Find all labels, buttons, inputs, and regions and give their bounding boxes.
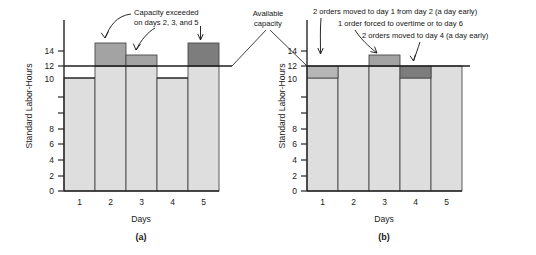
y-tick-label-a-8: 8 (49, 124, 54, 134)
y-tick-label-a-0: 0 (49, 186, 54, 196)
x-tick-label-b-1: 1 (320, 197, 325, 207)
x-axis-title-b: Days (374, 214, 394, 224)
order-forced-overtime-text: 1 order forced to overtime or to day 6 (338, 19, 463, 28)
x-tick-label-b-4: 4 (413, 197, 418, 207)
bar-b-3-overflow (369, 55, 400, 66)
y-tick-label-b-8: 8 (292, 124, 297, 134)
bar-a-1-base (64, 78, 95, 191)
y-tick-label-b-14: 14 (288, 46, 298, 56)
bar-b-1-rescheduled (307, 66, 338, 78)
y-tick-label-a-14: 14 (45, 46, 55, 56)
figure-container: 0 2 4 6 8 10 12 14 1 2 3 4 5 Days Standa… (0, 0, 536, 255)
y-tick-label-b-0: 0 (292, 186, 297, 196)
panel-label-b: (b) (378, 232, 390, 242)
y-tick-label-b-12: 12 (288, 61, 298, 71)
available-capacity-line-1: Available (253, 9, 284, 18)
y-axis-title-b: Standard Labor-Hours (277, 63, 287, 148)
panel-a: 0 2 4 6 8 10 12 14 1 2 3 4 5 Days Standa… (24, 8, 232, 242)
bar-a-4-base (157, 78, 188, 191)
x-axis-title-a: Days (131, 214, 151, 224)
bar-b-3-base (369, 66, 400, 191)
capacity-exceeded-note-line-1: Capacity exceeded (134, 8, 199, 17)
available-capacity-line-2: capacity (254, 19, 282, 28)
panel-label-a: (a) (136, 232, 147, 242)
bar-b-2-base (338, 66, 369, 191)
bar-b-1-base (307, 78, 338, 191)
y-ticks-b (301, 51, 307, 191)
orders-moved-day1-text: 2 orders moved to day 1 from day 2 (a da… (313, 7, 478, 16)
arrowhead-bar-b-4 (410, 55, 415, 61)
y-ticks-a (58, 51, 64, 191)
bar-a-2-base (95, 66, 126, 191)
y-tick-label-a-10: 10 (45, 74, 55, 84)
y-tick-label-a-12: 12 (45, 61, 55, 71)
x-tick-label-a-5: 5 (201, 197, 206, 207)
y-tick-label-b-4: 4 (292, 155, 297, 165)
x-tick-label-a-3: 3 (139, 197, 144, 207)
leader-to-capacity-a (232, 30, 266, 66)
capacity-exceeded-note-line-2: on days 2, 3, and 5 (134, 18, 199, 27)
x-tick-label-b-2: 2 (351, 197, 356, 207)
arrow-to-bar-b-1 (320, 18, 321, 54)
orders-moved-day4-text: 2 orders moved to day 4 (a day early) (362, 31, 489, 40)
y-tick-label-b-6: 6 (292, 139, 297, 149)
bar-a-3-overflow (126, 55, 157, 66)
y-tick-label-a-2: 2 (49, 171, 54, 181)
y-tick-label-a-4: 4 (49, 155, 54, 165)
arrow-to-bar-a-2 (105, 14, 131, 38)
panel-b: 0 2 4 6 8 10 12 14 1 2 3 4 5 Days Standa… (277, 7, 489, 242)
bar-b-4-rescheduled (400, 66, 431, 78)
two-panel-bar-chart: 0 2 4 6 8 10 12 14 1 2 3 4 5 Days Standa… (0, 0, 536, 255)
x-tick-label-b-3: 3 (382, 197, 387, 207)
y-tick-label-b-2: 2 (292, 171, 297, 181)
bar-a-2-overflow (95, 43, 126, 66)
bar-a-5-overflow (188, 43, 219, 66)
x-tick-label-a-2: 2 (108, 197, 113, 207)
y-tick-label-a-6: 6 (49, 139, 54, 149)
bar-a-5-base (188, 66, 219, 191)
bar-a-3-base (126, 66, 157, 191)
x-tick-label-a-1: 1 (77, 197, 82, 207)
bar-b-4-base (400, 78, 431, 191)
y-axis-title-a: Standard Labor-Hours (24, 63, 34, 148)
x-tick-label-a-4: 4 (170, 197, 175, 207)
y-tick-label-b-10: 10 (288, 74, 298, 84)
x-tick-label-b-5: 5 (444, 197, 449, 207)
available-capacity-callout: Available capacity (232, 9, 307, 66)
bar-b-5-base (431, 66, 462, 191)
